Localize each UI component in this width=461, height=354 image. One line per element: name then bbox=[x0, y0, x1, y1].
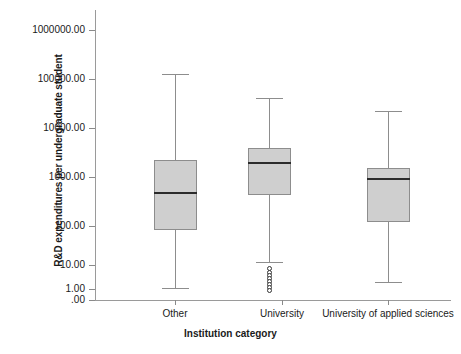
x-tick-mark bbox=[175, 300, 176, 305]
box-rect bbox=[367, 168, 410, 222]
y-tick-mark bbox=[89, 265, 95, 266]
whisker-cap-lower bbox=[375, 282, 402, 283]
box-rect bbox=[154, 160, 197, 230]
y-tick-mark bbox=[89, 30, 95, 31]
y-tick-mark bbox=[89, 128, 95, 129]
x-tick-label-applied-sciences: University of applied sciences bbox=[313, 308, 461, 319]
x-tick-mark bbox=[388, 300, 389, 305]
y-tick-label: .00 bbox=[0, 294, 85, 305]
y-axis-line bbox=[95, 10, 96, 301]
whisker-line-lower bbox=[175, 230, 176, 288]
median-line bbox=[248, 162, 291, 164]
whisker-line-upper bbox=[175, 74, 176, 160]
y-tick-mark bbox=[89, 79, 95, 80]
whisker-line-upper bbox=[388, 111, 389, 168]
x-tick-label-other: Other bbox=[125, 308, 225, 319]
x-axis-title: Institution category bbox=[0, 328, 461, 339]
whisker-cap-lower bbox=[162, 288, 189, 289]
whisker-cap-lower bbox=[256, 262, 283, 263]
y-tick-label: 1.00 bbox=[0, 283, 85, 294]
whisker-line-upper bbox=[269, 98, 270, 148]
outlier-point bbox=[267, 288, 272, 293]
y-tick-label: 100.00 bbox=[0, 220, 85, 231]
box-plot-chart: R&D expenditures per undergraduate stude… bbox=[0, 0, 461, 354]
y-tick-mark bbox=[89, 226, 95, 227]
y-tick-mark bbox=[89, 300, 95, 301]
y-tick-label: 1000.00 bbox=[0, 171, 85, 182]
x-axis-line bbox=[95, 300, 451, 301]
y-tick-mark bbox=[89, 289, 95, 290]
y-tick-label: 10000.00 bbox=[0, 122, 85, 133]
y-tick-label: 1000000.00 bbox=[0, 24, 85, 35]
median-line bbox=[367, 178, 410, 180]
y-tick-mark bbox=[89, 177, 95, 178]
y-tick-label: 100000.00 bbox=[0, 73, 85, 84]
median-line bbox=[154, 192, 197, 194]
y-tick-label: 10.00 bbox=[0, 259, 85, 270]
box-rect bbox=[248, 148, 291, 195]
whisker-line-lower bbox=[269, 195, 270, 262]
x-tick-mark bbox=[282, 300, 283, 305]
whisker-line-lower bbox=[388, 222, 389, 282]
